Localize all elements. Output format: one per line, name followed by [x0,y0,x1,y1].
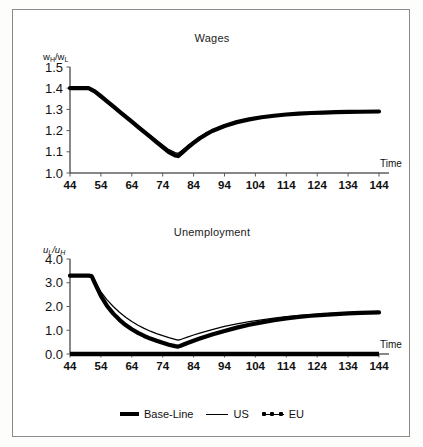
figure-border: Wages wH/wL 1.01.11.21.31.41.54454647484… [12,9,410,437]
y-tick-label: 1.4 [45,81,63,96]
y-tick-label: 4.0 [45,252,63,267]
plot-svg-wages: 1.01.11.21.31.41.54454647484941041141241… [13,10,411,216]
x-tick-label: 134 [339,179,359,191]
series-line-eu [70,276,379,347]
series-line-us [70,88,379,153]
x-tick-label: 54 [95,360,108,372]
x-axis-label-unemployment: Time [380,339,402,350]
plot-svg-unemployment: 0.01.02.03.04.04454647484941041141241341… [13,208,411,408]
y-tick-label: 0.0 [45,347,63,362]
x-tick-label: 114 [277,179,296,191]
y-tick-label: 1.2 [45,123,63,138]
chart-legend: Base-Line US EU [13,408,411,420]
legend-label-base-line: Base-Line [144,408,194,420]
x-tick-label: 74 [156,179,169,191]
x-tick-label: 84 [187,360,200,372]
legend-swatch-us-icon [206,414,228,415]
x-tick-label: 94 [218,179,231,191]
x-tick-label: 94 [218,360,231,372]
figure-canvas: Wages wH/wL 1.01.11.21.31.41.54454647484… [0,0,423,447]
legend-swatch-eu-icon [262,411,284,418]
x-tick-label: 44 [64,360,77,372]
x-tick-label: 114 [277,360,296,372]
x-tick-label: 104 [246,179,266,191]
legend-item-base-line: Base-Line [120,408,194,420]
x-tick-label: 44 [64,179,77,191]
y-tick-label: 2.0 [45,299,63,314]
x-tick-label: 144 [369,179,389,191]
y-tick-label: 1.0 [45,166,63,181]
x-tick-label: 64 [125,360,138,372]
x-tick-label: 104 [246,360,266,372]
y-tick-label: 1.0 [45,323,63,338]
x-tick-label: 54 [95,179,108,191]
chart-panel-wages: Wages wH/wL 1.01.11.21.31.41.54454647484… [13,10,411,216]
x-axis-label-wages: Time [380,158,402,169]
series-line-eu [70,88,379,156]
y-tick-label: 1.5 [45,60,63,75]
legend-label-eu: EU [289,408,304,420]
chart-panel-unemployment: Unemployment uL/uH 0.01.02.03.04.0445464… [13,208,411,408]
x-tick-label: 84 [187,179,200,191]
plot-area-unemployment: 0.01.02.03.04.04454647484941041141241341… [13,208,411,408]
x-tick-label: 144 [369,360,389,372]
legend-label-us: US [233,408,248,420]
plot-area-wages: 1.01.11.21.31.41.54454647484941041141241… [13,10,411,216]
x-tick-label: 124 [308,179,328,191]
y-tick-label: 1.1 [45,144,63,159]
x-tick-label: 124 [308,360,328,372]
legend-swatch-base-line-icon [120,412,139,416]
legend-item-eu: EU [262,408,304,420]
x-tick-label: 134 [339,360,359,372]
legend-item-us: US [206,408,248,420]
x-tick-label: 74 [156,360,169,372]
y-tick-label: 3.0 [45,275,63,290]
y-tick-label: 1.3 [45,102,63,117]
x-tick-label: 64 [125,179,138,191]
